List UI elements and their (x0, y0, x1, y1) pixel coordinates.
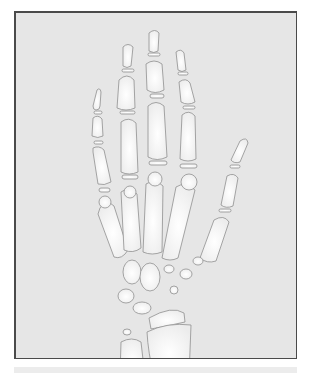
metacarpal-bones (98, 172, 197, 260)
thumb-bones (200, 139, 248, 262)
middle-finger-bones (146, 31, 167, 166)
bottom-bar (14, 367, 297, 373)
xray-illustration-frame (14, 11, 297, 359)
forearm-bones (120, 310, 191, 359)
hand-skeleton-illustration (14, 11, 297, 359)
little-finger-bones (92, 89, 111, 192)
index-finger-bones (176, 50, 197, 168)
ring-finger-bones (117, 45, 138, 180)
